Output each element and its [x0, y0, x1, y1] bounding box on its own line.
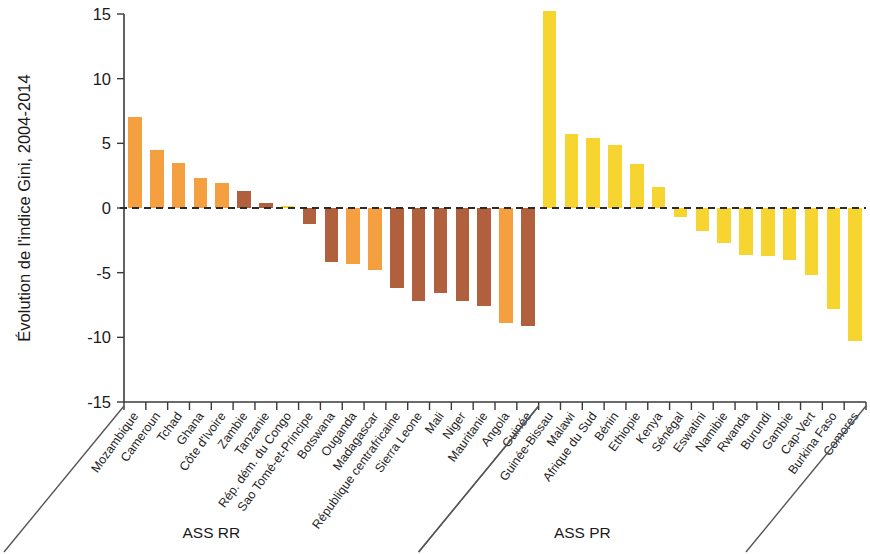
y-tick-label: 15: [93, 5, 111, 23]
bar-guin-e: [521, 208, 535, 326]
bar-sao-tom-et-principe: [303, 208, 317, 224]
bar-s-n-gal: [674, 208, 688, 217]
bar-guin-e-bissau: [543, 11, 557, 208]
group-label-ass-pr: ASS PR: [554, 524, 611, 541]
y-tick-label: -5: [96, 264, 111, 282]
bar-sierra-leone: [412, 208, 426, 301]
y-tick-label: 5: [102, 134, 111, 152]
y-tick-label: -10: [87, 328, 111, 346]
y-tick-label: -15: [87, 393, 111, 411]
bar-botswana: [325, 208, 339, 262]
y-tick-label: 10: [93, 70, 111, 88]
y-tick-label: 0: [102, 199, 111, 217]
bar-mali: [434, 208, 448, 293]
bar-namibie: [717, 208, 731, 243]
bar-cap-vert: [805, 208, 819, 275]
bar-cameroun: [150, 150, 164, 208]
bar-mozambique: [128, 117, 142, 208]
bar-malawi: [565, 134, 579, 208]
bar-ouganda: [346, 208, 360, 264]
bar-kenya: [652, 187, 666, 208]
bar-mauritanie: [477, 208, 491, 306]
gini-evolution-bar-chart: 151050-5-10-15 Évolution de l'indice Gin…: [0, 0, 870, 554]
bar-comores: [848, 208, 862, 341]
bar-afrique-du-sud: [586, 138, 600, 208]
bar-rwanda: [739, 208, 753, 255]
bar-madagascar: [368, 208, 382, 270]
y-axis-title-text: Évolution de l'indice Gini, 2004-2014: [15, 74, 33, 341]
y-axis-title: Évolution de l'indice Gini, 2004-2014: [15, 74, 33, 341]
chart-canvas: 151050-5-10-15 Évolution de l'indice Gin…: [0, 0, 870, 554]
bar-tchad: [172, 163, 186, 208]
bar-c-te-d-ivoire: [215, 183, 229, 208]
bar-burundi: [761, 208, 775, 256]
bar-eswatini: [696, 208, 710, 231]
bar-ghana: [194, 178, 208, 208]
group-label-ass-rr: ASS RR: [182, 524, 240, 541]
bar-r-publique-centrafricaine: [390, 208, 404, 288]
bar-zambie: [237, 191, 251, 208]
bar-ethiopie: [630, 164, 644, 208]
bar-angola: [499, 208, 513, 323]
bar-niger: [456, 208, 470, 301]
bar-gambie: [783, 208, 797, 260]
bar-burkina-faso: [827, 208, 841, 309]
bar-b-nin: [608, 145, 622, 208]
